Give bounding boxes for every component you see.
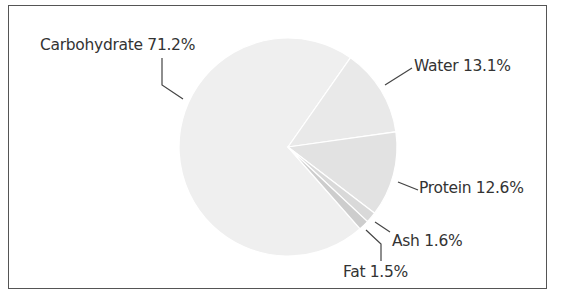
leader-line-protein: [398, 182, 418, 190]
label-water: Water 13.1%: [414, 57, 511, 75]
leader-line-carbohydrate: [162, 58, 183, 99]
leader-line-ash: [375, 222, 390, 232]
label-carbohydrate: Carbohydrate 71.2%: [40, 36, 195, 54]
label-fat: Fat 1.5%: [343, 263, 408, 281]
leader-line-water: [385, 68, 412, 85]
label-protein: Protein 12.6%: [419, 179, 524, 197]
leader-line-fat: [366, 230, 381, 261]
label-ash: Ash 1.6%: [392, 232, 462, 250]
